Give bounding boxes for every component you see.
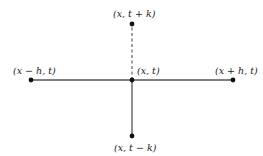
label-bottom: (x, t − k) (114, 143, 156, 153)
point-right (231, 78, 236, 83)
point-center (130, 78, 135, 83)
label-left: (x − h, t) (13, 66, 56, 76)
point-left (29, 78, 34, 83)
point-top (130, 22, 135, 27)
stencil-diagram (0, 0, 263, 156)
label-top: (x, t + k) (113, 9, 155, 19)
point-bottom (130, 134, 135, 139)
label-center: (x, t) (137, 66, 160, 76)
label-right: (x + h, t) (215, 66, 258, 76)
